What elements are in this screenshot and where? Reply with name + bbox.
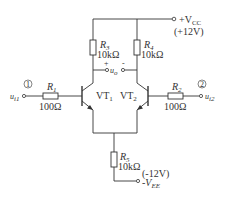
vcc-rail [93,17,176,21]
vt1-label: VT1 [96,90,113,103]
resistor-r3 [90,19,96,83]
r2-label: R2 [171,81,182,94]
transistor-vt1 [82,83,93,133]
output-plus: + [104,59,109,68]
r2-value: 100Ω [164,101,186,112]
vcc-terminal [172,17,176,21]
r1-value: 100Ω [39,101,61,112]
vcc-value: (+12V) [174,26,204,38]
r1-label: R1 [46,81,57,94]
transistor-vt2 [137,83,148,133]
vt2-label: VT2 [120,90,137,103]
node-2-number: 2 [200,80,204,89]
input-1-terminal [22,94,25,97]
input-2-terminal [199,94,202,97]
r5-value: 10kΩ [118,161,140,172]
output-minus: - [122,59,125,68]
input-1-label: ui1 [10,92,19,103]
node-1-number: 1 [26,80,30,89]
vee-terminal [136,179,139,182]
resistor-r4 [134,19,140,83]
r4-value: 10kΩ [141,49,163,60]
resistor-r5 [111,152,117,167]
emitter-tail [93,133,140,183]
output-label: uo [110,66,118,77]
circuit-diagram: +VCC (+12V) R3 10kΩ R4 10kΩ + - uo VT1 [0,0,226,199]
input-2-branch [148,93,203,99]
input-2-label: ui2 [205,92,215,103]
